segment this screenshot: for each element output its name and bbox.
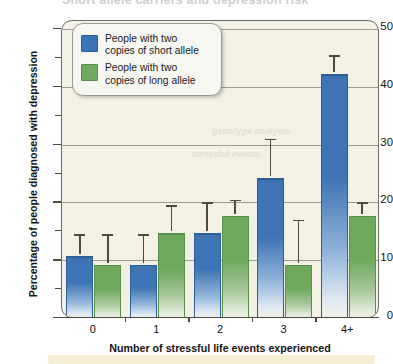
x-tick-label-1: 1: [136, 323, 176, 335]
bar-top-edge: [95, 265, 120, 266]
error-bar-stem-short-2: [206, 202, 208, 231]
bar-short-allele-4plus: [321, 74, 348, 318]
bar-top-edge: [223, 216, 248, 217]
bar-top-edge: [286, 265, 311, 266]
x-tick-label-3: 3: [264, 323, 304, 335]
legend-item-short-allele: People with two copies of short allele: [81, 33, 212, 57]
bar-top-edge: [322, 74, 347, 75]
bar-long-allele-3: [285, 265, 312, 318]
y-tick-label-20: 20: [345, 193, 393, 205]
y-tick-label-10: 10: [345, 251, 393, 263]
chart-legend: People with two copies of short allele P…: [72, 23, 222, 96]
error-bar-cap-short-2: [202, 202, 213, 204]
bar-short-allele-1: [130, 265, 157, 318]
y-tick-30: [53, 144, 61, 145]
y-tick-0: [53, 317, 61, 318]
x-tick-label-2: 2: [200, 323, 240, 335]
y-tick-40: [53, 86, 61, 87]
legend-label-short-allele: People with two copies of short allele: [105, 33, 199, 57]
legend-label-short-allele-line2: copies of short allele: [105, 45, 199, 57]
x-tick-boundary-4: [315, 317, 316, 322]
y-tick-50: [53, 28, 61, 29]
error-bar-cap-short-1: [138, 234, 149, 236]
bar-short-allele-3: [257, 178, 284, 318]
error-bar-cap-long-2: [230, 200, 241, 202]
bar-top-edge: [350, 216, 375, 217]
bar-long-allele-1: [158, 233, 185, 318]
legend-swatch-long-allele-icon: [81, 64, 98, 81]
bar-top-edge: [195, 233, 220, 234]
error-bar-cap-short-0: [74, 234, 85, 236]
bar-short-allele-2: [194, 233, 221, 318]
error-bar-stem-long-0: [107, 234, 109, 263]
error-bar-cap-long-0: [102, 234, 113, 236]
x-axis-line: [61, 317, 379, 318]
y-tick-10: [53, 259, 61, 260]
error-bar-stem-short-0: [79, 234, 81, 254]
x-tick-label-0: 0: [73, 323, 113, 335]
legend-label-long-allele: People with two copies of long allele: [105, 62, 195, 86]
error-bar-stem-short-1: [143, 234, 145, 263]
legend-swatch-short-allele-icon: [81, 35, 98, 52]
bar-top-edge: [258, 178, 283, 179]
y-tick-minor-25: [55, 173, 61, 174]
error-bar-cap-short-3: [265, 139, 276, 141]
y-tick-minor-5: [55, 288, 61, 289]
y-tick-minor-45: [55, 57, 61, 58]
y-axis-title: Percentage of people diagnosed with depr…: [27, 24, 39, 324]
bar-short-allele-0: [66, 256, 93, 318]
bottom-accent-strip: [48, 355, 375, 364]
bar-top-edge: [131, 265, 156, 266]
y-tick-label-30: 30: [345, 136, 393, 148]
y-tick-label-40: 40: [345, 78, 393, 90]
x-tick-label-4plus: 4+: [327, 323, 367, 335]
x-axis-title: Number of stressful life events experien…: [61, 342, 379, 354]
bar-long-allele-4plus: [349, 216, 376, 318]
y-tick-20: [53, 201, 61, 202]
error-bar-cap-long-1: [166, 205, 177, 207]
bar-long-allele-2: [222, 216, 249, 318]
x-tick-boundary-1: [125, 317, 126, 322]
error-bar-stem-long-3: [298, 220, 300, 263]
error-bar-stem-long-1: [171, 205, 173, 231]
legend-label-long-allele-line2: copies of long allele: [105, 75, 195, 87]
y-tick-minor-15: [55, 230, 61, 231]
legend-item-long-allele: People with two copies of long allele: [81, 62, 212, 86]
y-tick-minor-35: [55, 115, 61, 116]
x-tick-boundary-2: [188, 317, 189, 322]
error-bar-cap-short-4plus: [329, 55, 340, 57]
x-tick-boundary-3: [252, 317, 253, 322]
error-bar-stem-short-3: [270, 139, 272, 177]
bar-top-edge: [159, 233, 184, 234]
error-bar-cap-long-3: [293, 220, 304, 222]
error-bar-stem-short-4plus: [333, 55, 335, 72]
legend-label-short-allele-line1: People with two: [105, 33, 199, 45]
legend-label-long-allele-line1: People with two: [105, 62, 195, 74]
y-tick-label-0: 0: [345, 309, 393, 321]
error-bar-stem-long-2: [234, 200, 236, 214]
bar-chart-figure: Percentage of people diagnosed with depr…: [0, 0, 393, 364]
y-tick-label-50: 50: [345, 20, 393, 32]
bar-long-allele-0: [94, 265, 121, 318]
bar-top-edge: [67, 256, 92, 257]
